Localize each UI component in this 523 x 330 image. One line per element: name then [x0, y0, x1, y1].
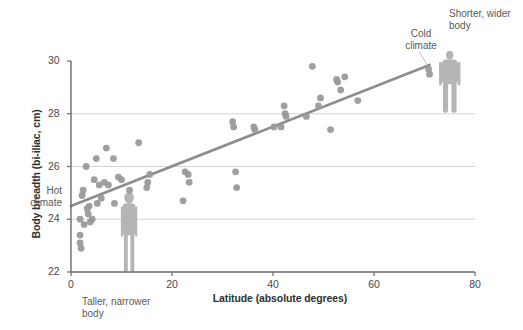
y-axis-title: Body breadth (bi-iliac, cm): [30, 74, 42, 274]
annotation-hot-climate-line1: Hot: [8, 185, 62, 197]
annotation-hot-climate-line2: climate: [8, 197, 62, 209]
data-point: [337, 87, 344, 94]
annotation-taller-line2: body: [82, 308, 192, 320]
data-point: [278, 124, 285, 131]
chart-figure: Body breadth (bi-iliac, cm) Latitude (ab…: [0, 0, 523, 330]
cold-climate-leader: [419, 52, 427, 64]
data-point: [110, 155, 117, 162]
annotation-shorter-line1: Shorter, wider: [449, 8, 523, 20]
x-tick-label-80: 80: [455, 278, 495, 290]
annotation-taller-narrower: Taller, narrower body: [82, 296, 192, 319]
data-point: [251, 126, 258, 133]
data-point: [230, 124, 237, 131]
data-point: [327, 126, 334, 133]
data-point: [93, 155, 100, 162]
data-point: [271, 124, 278, 131]
data-point: [185, 171, 192, 178]
x-tick-label-20: 20: [152, 278, 192, 290]
data-point: [86, 203, 93, 210]
y-tick-label-24: 24: [48, 212, 60, 224]
data-point: [78, 245, 85, 252]
short-wide-human-icon: [439, 51, 460, 113]
annotation-cold-climate-line1: Cold: [396, 28, 446, 40]
annotation-taller-line1: Taller, narrower: [82, 296, 192, 308]
tall-narrow-human-icon: [121, 192, 137, 272]
y-tick-label-22: 22: [48, 265, 60, 277]
data-point: [341, 73, 348, 80]
trend-line: [71, 65, 430, 206]
x-tick-label-40: 40: [253, 278, 293, 290]
data-point: [126, 187, 133, 194]
data-point: [80, 187, 87, 194]
x-tick-label-60: 60: [354, 278, 394, 290]
data-point: [426, 71, 433, 78]
data-point: [309, 63, 316, 70]
data-point: [232, 168, 239, 175]
data-point: [180, 197, 187, 204]
data-point: [105, 182, 112, 189]
annotation-shorter-wider: Shorter, wider body: [449, 8, 523, 31]
data-point: [315, 102, 322, 109]
data-point: [317, 95, 324, 102]
data-point: [281, 102, 288, 109]
data-point: [111, 200, 118, 207]
annotation-shorter-line2: body: [449, 20, 523, 32]
y-tick-label-30: 30: [48, 54, 60, 66]
data-point: [303, 113, 310, 120]
y-tick-label-26: 26: [48, 160, 60, 172]
data-point: [89, 216, 96, 223]
data-point: [98, 195, 105, 202]
data-point: [83, 163, 90, 170]
data-point: [334, 79, 341, 86]
data-point: [135, 139, 142, 146]
data-point: [146, 171, 153, 178]
data-point: [118, 176, 125, 183]
data-point: [144, 179, 151, 186]
data-point: [103, 145, 110, 152]
data-point: [77, 232, 84, 239]
y-tick-label-28: 28: [48, 107, 60, 119]
data-point: [91, 176, 98, 183]
x-tick-label-0: 0: [51, 278, 91, 290]
data-point: [233, 184, 240, 191]
data-point: [81, 221, 88, 228]
annotation-hot-climate: Hot climate: [8, 185, 62, 208]
annotation-cold-climate-line2: climate: [396, 40, 446, 52]
annotation-cold-climate: Cold climate: [396, 28, 446, 51]
data-point: [283, 113, 290, 120]
data-point: [186, 179, 193, 186]
data-point: [354, 97, 361, 104]
